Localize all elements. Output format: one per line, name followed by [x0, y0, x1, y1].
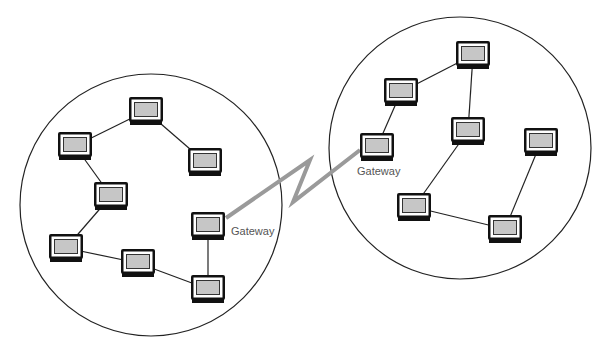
- gateway-computer-icon: [360, 133, 394, 161]
- wan-link-line: [226, 150, 360, 218]
- computer-icon: [488, 215, 522, 243]
- computer-icon: [524, 128, 558, 156]
- computer-icon: [188, 148, 222, 176]
- computer-icon: [451, 117, 485, 145]
- gateway-label-left: Gateway: [231, 225, 274, 237]
- network-diagram: [0, 0, 605, 347]
- computer-icon: [129, 97, 163, 125]
- wan-link: [226, 150, 360, 218]
- computer-icon: [384, 78, 418, 106]
- computer-icon: [397, 193, 431, 221]
- gateway-computer-icon: [191, 212, 225, 240]
- computer-icon: [58, 132, 92, 160]
- computer-icon: [49, 234, 83, 262]
- computer-icon: [94, 182, 128, 210]
- computer-icon: [456, 41, 490, 69]
- computer-icon: [191, 275, 225, 303]
- gateway-label-right: Gateway: [357, 165, 400, 177]
- network-boundaries: [20, 17, 591, 336]
- computer-icon: [121, 249, 155, 277]
